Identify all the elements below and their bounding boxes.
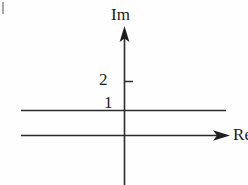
complex-plane-diagram: Im Re 2 1 — [0, 0, 248, 185]
tick-label-2: 2 — [99, 71, 108, 88]
tick-label-1: 1 — [104, 94, 113, 111]
diagram-canvas — [0, 0, 248, 185]
imaginary-axis-label: Im — [111, 6, 130, 23]
real-axis-label: Re — [233, 126, 248, 143]
